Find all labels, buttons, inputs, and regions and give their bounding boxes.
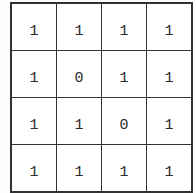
table-row: 1 1 1 1: [11, 3, 192, 51]
cell-value: 0: [102, 118, 146, 144]
matrix-cell-r3c3: 0: [102, 98, 147, 145]
matrix-cell-r4c4: 1: [147, 145, 193, 193]
binary-matrix-grid: 1 1 1 1 1 0 1: [10, 2, 193, 193]
matrix-cell-r1c2: 1: [57, 3, 102, 51]
matrix-cell-r2c2: 0: [57, 51, 102, 98]
table-row: 1 0 1 1: [11, 51, 192, 98]
cell-value: 1: [102, 165, 146, 191]
matrix-cell-r2c4: 1: [147, 51, 193, 98]
matrix-cell-r2c1: 1: [11, 51, 57, 98]
cell-value: 1: [147, 71, 191, 97]
cell-value: 0: [57, 71, 101, 97]
cell-value: 1: [102, 24, 146, 50]
cell-value: 1: [12, 118, 56, 144]
cell-value: 1: [57, 24, 101, 50]
matrix-cell-r3c1: 1: [11, 98, 57, 145]
cell-value: 1: [147, 118, 191, 144]
table-row: 1 1 0 1: [11, 98, 192, 145]
cell-value: 1: [12, 24, 56, 50]
matrix-cell-r4c3: 1: [102, 145, 147, 193]
cell-value: 1: [12, 165, 56, 191]
matrix-cell-r1c4: 1: [147, 3, 193, 51]
cell-value: 1: [147, 24, 191, 50]
matrix-cell-r1c3: 1: [102, 3, 147, 51]
binary-matrix-figure: 1 1 1 1 1 0 1: [0, 0, 196, 193]
cell-value: 1: [12, 71, 56, 97]
cell-value: 1: [57, 118, 101, 144]
matrix-cell-r4c1: 1: [11, 145, 57, 193]
matrix-cell-r3c4: 1: [147, 98, 193, 145]
matrix-cell-r3c2: 1: [57, 98, 102, 145]
matrix-body: 1 1 1 1 1 0 1: [11, 3, 192, 192]
cell-value: 1: [102, 71, 146, 97]
cell-value: 1: [147, 165, 191, 191]
matrix-cell-r2c3: 1: [102, 51, 147, 98]
matrix-cell-r1c1: 1: [11, 3, 57, 51]
cell-value: 1: [57, 165, 101, 191]
table-row: 1 1 1 1: [11, 145, 192, 193]
matrix-cell-r4c2: 1: [57, 145, 102, 193]
